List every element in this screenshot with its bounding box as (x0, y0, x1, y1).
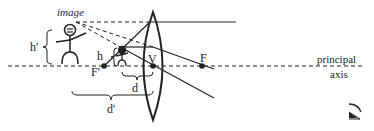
object-figure (116, 47, 128, 67)
F-prime-label: F' (91, 65, 100, 79)
image-figure (56, 25, 86, 65)
image-label: image (57, 6, 84, 18)
d-label: d (132, 81, 138, 95)
eye-icon (349, 104, 361, 119)
principal-axis-label-line2: axis (330, 68, 348, 80)
d-prime-label: d' (107, 102, 115, 116)
h-label: h (97, 49, 103, 63)
V-label: V (148, 52, 157, 66)
h-prime-label: h' (30, 40, 38, 54)
F-label: F (200, 51, 207, 65)
point-F-prime (101, 63, 107, 69)
h-prime-brace (43, 30, 52, 64)
d-prime-brace (72, 91, 153, 100)
lens-diagram: image h' h F' V F d d' principal axis (0, 0, 374, 131)
principal-axis-label-line1: principal (317, 53, 356, 65)
diagram-canvas: image h' h F' V F d d' principal axis (0, 0, 374, 131)
d-brace (122, 72, 153, 80)
